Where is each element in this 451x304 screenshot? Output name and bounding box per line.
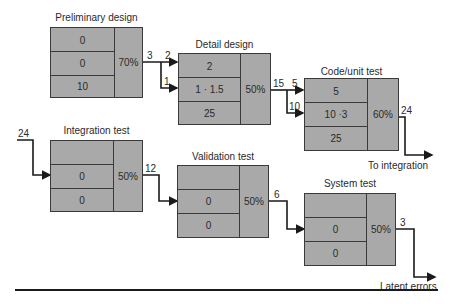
detection-efficiency: 50% xyxy=(114,141,142,211)
stage-box-system-test: 0 0 50% xyxy=(304,193,396,266)
errors-passed-through xyxy=(51,141,113,165)
flow-label: 5 xyxy=(292,78,298,89)
errors-amplified: 0 xyxy=(178,189,239,214)
flow-label: 24 xyxy=(401,105,412,116)
flow-label: 3 xyxy=(400,217,406,228)
newly-generated-errors: 10 xyxy=(51,75,114,98)
output-to-integration-label: To integration xyxy=(368,160,428,171)
flow-label: 6 xyxy=(274,189,280,200)
detection-efficiency: 70% xyxy=(115,28,142,97)
detection-efficiency: 60% xyxy=(368,79,398,150)
newly-generated-errors: 25 xyxy=(305,126,367,151)
flow-label: 15 xyxy=(273,78,284,89)
errors-amplified: 10 ·3 xyxy=(305,102,367,127)
stage-box-integration-test: 0 0 50% xyxy=(50,140,143,212)
detection-efficiency: 50% xyxy=(240,166,268,237)
newly-generated-errors: 0 xyxy=(305,241,366,266)
errors-passed-through: 5 xyxy=(305,79,367,103)
errors-passed-through xyxy=(305,194,366,218)
newly-generated-errors: 25 xyxy=(179,101,240,125)
detection-efficiency: 50% xyxy=(367,194,395,265)
stage-title: System test xyxy=(304,178,396,189)
stage-box-code-unit-test: 5 10 ·3 25 60% xyxy=(304,78,399,151)
flow-label: 1 xyxy=(164,76,170,87)
errors-amplified: 0 xyxy=(51,51,114,76)
flow-label: 2 xyxy=(165,50,171,61)
flow-label: 24 xyxy=(18,128,29,139)
errors-amplified: 0 xyxy=(305,217,366,242)
defect-amplification-diagram: Preliminary design 0 0 10 70% Detail des… xyxy=(0,0,451,304)
stage-box-validation-test: 0 0 50% xyxy=(177,165,269,238)
stage-box-detail-design: 2 1 · 1.5 25 50% xyxy=(178,53,271,125)
stage-title: Validation test xyxy=(177,151,269,162)
detection-efficiency: 50% xyxy=(241,54,270,124)
errors-passed-through: 0 xyxy=(51,28,114,52)
flow-label: 12 xyxy=(145,163,156,174)
errors-passed-through xyxy=(178,166,239,190)
stage-box-preliminary-design: 0 0 10 70% xyxy=(50,27,143,98)
errors-amplified: 1 · 1.5 xyxy=(179,77,240,102)
stage-title: Code/unit test xyxy=(304,66,399,77)
errors-passed-through: 2 xyxy=(179,54,240,78)
errors-amplified: 0 xyxy=(51,164,113,189)
stage-title: Detail design xyxy=(178,39,271,50)
flow-label: 3 xyxy=(147,50,153,61)
stage-title: Integration test xyxy=(50,125,143,136)
newly-generated-errors: 0 xyxy=(51,188,113,212)
flow-label: 10 xyxy=(289,101,300,112)
bottom-rule xyxy=(15,289,438,291)
stage-title: Preliminary design xyxy=(50,12,143,23)
newly-generated-errors: 0 xyxy=(178,213,239,238)
